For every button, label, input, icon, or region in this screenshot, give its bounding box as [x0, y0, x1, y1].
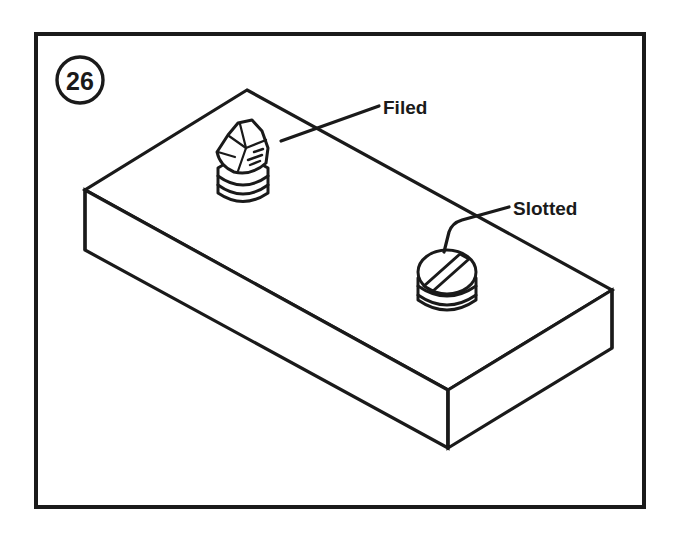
- figure-illustration: Filed Slotted 26: [0, 0, 675, 539]
- figure-number-text: 26: [66, 67, 94, 95]
- callout-label-filed: Filed: [383, 97, 427, 118]
- callout-label-slotted: Slotted: [513, 198, 577, 219]
- technical-illustration-canvas: Filed Slotted 26: [0, 0, 675, 539]
- slotted-screw: [418, 250, 476, 310]
- figure-number-badge: 26: [57, 57, 103, 103]
